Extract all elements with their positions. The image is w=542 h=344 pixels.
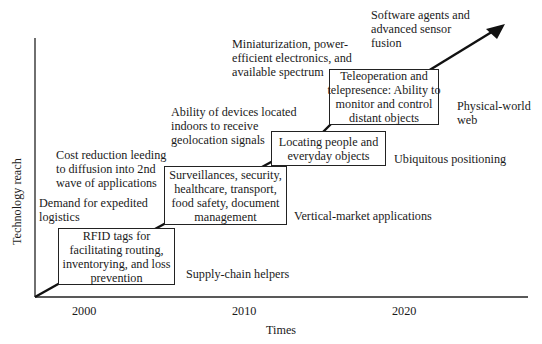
- x-tick-2010: 2010: [232, 304, 256, 318]
- x-tick-2000: 2000: [72, 304, 96, 318]
- phase-label-supply-chain: Supply-chain helpers: [186, 267, 289, 281]
- stage-box-surveillance: Surveillances, security, healthcare, tra…: [164, 166, 287, 225]
- x-tick-2020: 2020: [392, 304, 416, 318]
- phase-label-physical-world-web: Physical-world web: [457, 99, 531, 127]
- connector-origin-to-rfid: [35, 283, 60, 297]
- driver-label-2: Cost reduction leeding to diffusion into…: [56, 148, 166, 190]
- stage-box-rfid: RFID tags for facilitating routing, inve…: [58, 228, 175, 285]
- phase-label-vertical-market: Vertical-market applications: [294, 209, 432, 223]
- x-axis-label: Times: [266, 323, 296, 337]
- driver-label-1: Demand for expedited logistics: [39, 196, 148, 224]
- driver-label-5: Software agents and advanced sensor fusi…: [371, 8, 470, 50]
- arrowhead-icon: [486, 24, 505, 39]
- stage-box-locating: Locating people and everyday objects: [271, 131, 386, 166]
- phase-label-ubiquitous: Ubiquitous positioning: [394, 152, 506, 166]
- y-axis-label: Technology reach: [10, 158, 25, 245]
- stage-box-teleoperation: Teleoperation and telepresence: Ability …: [329, 69, 439, 125]
